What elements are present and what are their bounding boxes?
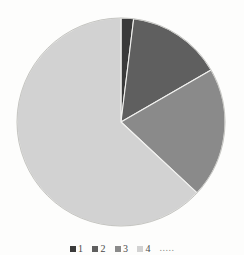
chart-legend: 1234..... (0, 243, 244, 255)
legend-item-3[interactable]: 3 (115, 243, 129, 255)
chart-plot-area (0, 0, 244, 240)
legend-label-4: 4 (146, 244, 151, 254)
legend-label-3: 3 (123, 244, 128, 254)
legend-label-1: 1 (78, 244, 83, 254)
pie-chart-figure: sopra le ragionicon le condizioni indica… (0, 0, 244, 255)
pie-chart-svg (0, 0, 244, 240)
legend-item-4[interactable]: 4 (137, 243, 151, 255)
legend-swatch-1 (70, 246, 76, 252)
legend-swatch-2 (92, 246, 98, 252)
legend-item-1[interactable]: 1 (70, 243, 84, 255)
legend-item-2[interactable]: 2 (92, 243, 106, 255)
legend-trailing-text: ..... (160, 243, 175, 253)
legend-swatch-4 (137, 246, 143, 252)
legend-swatch-3 (115, 246, 121, 252)
legend-label-2: 2 (101, 244, 106, 254)
pie-slice-group (17, 18, 225, 226)
